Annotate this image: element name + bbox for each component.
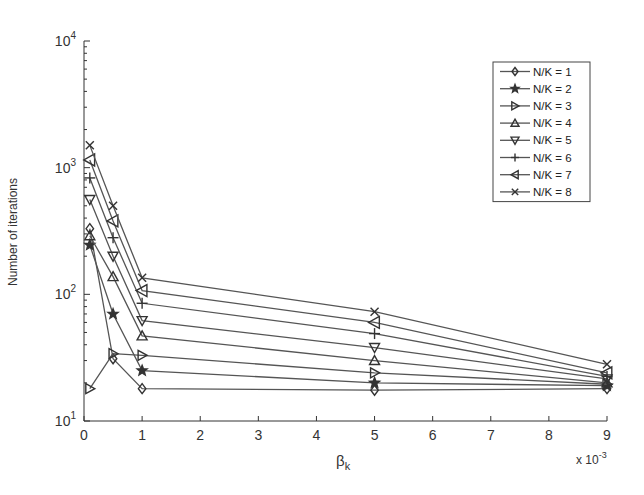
series-nk-4: [85, 231, 612, 387]
y-axis-label: Number of iterations: [6, 178, 20, 286]
line-chart: 0123456789101102103104 N/K = 1N/K = 2N/K…: [0, 0, 644, 495]
x-tick-label: 1: [138, 427, 146, 443]
series-line: [90, 354, 607, 389]
marker-star: [108, 309, 118, 319]
legend-label: N/K = 2: [533, 83, 572, 95]
legend-label: N/K = 6: [533, 152, 572, 164]
series-line: [90, 200, 607, 379]
x-tick-label: 4: [313, 427, 321, 443]
x-tick-label: 0: [80, 427, 88, 443]
legend-label: N/K = 1: [533, 66, 572, 78]
marker-plus: [137, 298, 148, 309]
x-tick-label: 3: [254, 427, 262, 443]
marker-x: [86, 141, 94, 149]
y-tick-label: 102: [55, 283, 77, 302]
legend-label: N/K = 4: [533, 117, 572, 129]
marker-plus: [108, 232, 119, 243]
series-nk-1: [86, 224, 611, 396]
series-nk-2: [85, 240, 612, 390]
legend-label: N/K = 7: [533, 169, 572, 181]
marker-triangle-left: [84, 154, 95, 166]
x-tick-label: 8: [545, 427, 553, 443]
marker-x: [109, 202, 117, 210]
marker-star: [137, 365, 147, 375]
marker-plus: [84, 172, 95, 183]
series-nk-6: [84, 172, 612, 381]
y-tick-label: 101: [55, 410, 77, 429]
x-tick-label: 6: [429, 427, 437, 443]
x-tick-label: 2: [196, 427, 204, 443]
y-tick-label: 104: [55, 30, 77, 49]
legend: N/K = 1N/K = 2N/K = 3N/K = 4N/K = 5N/K =…: [493, 62, 590, 202]
x-tick-label: 9: [603, 427, 611, 443]
series-line: [90, 236, 607, 383]
legend-label: N/K = 5: [533, 134, 572, 146]
x-axis-label: βk: [336, 452, 351, 472]
marker-star: [370, 378, 380, 388]
marker-plus: [369, 328, 380, 339]
x-tick-label: 5: [371, 427, 379, 443]
y-tick-label: 103: [55, 157, 77, 176]
legend-label: N/K = 8: [533, 186, 572, 198]
series-line: [90, 245, 607, 386]
legend-label: N/K = 3: [533, 100, 572, 112]
series-nk-5: [85, 196, 612, 384]
x-axis-multiplier: x 10-3: [576, 450, 607, 467]
series-line: [90, 229, 607, 391]
x-tick-label: 7: [487, 427, 495, 443]
